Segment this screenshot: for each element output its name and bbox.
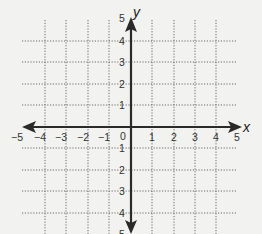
x-tick-2: 2 [171, 131, 177, 143]
y-tick-2: 2 [119, 78, 125, 90]
x-tick-neg5: −5 [11, 131, 23, 143]
x-tick-labels-negative: −5 −4 −3 −2 −1 [11, 131, 110, 143]
x-tick-4: 4 [213, 131, 219, 143]
y-tick-1: 1 [119, 99, 125, 111]
x-tick-neg3: −3 [55, 131, 67, 143]
x-tick-neg1: −1 [98, 131, 110, 143]
y-tick-neg5: 5 [119, 228, 125, 234]
x-tick-5: 5 [234, 131, 240, 143]
y-tick-labels-negative: 1 2 3 4 5 [119, 142, 125, 234]
y-tick-3: 3 [119, 56, 125, 68]
y-axis-label: y [132, 4, 141, 20]
y-tick-neg3: 3 [119, 185, 125, 197]
y-tick-neg4: 4 [119, 207, 125, 219]
coordinate-plane: x y 0 −5 −4 −3 −2 −1 1 2 3 4 5 5 4 3 2 1… [0, 0, 262, 234]
y-tick-5: 5 [119, 12, 125, 24]
y-tick-neg2: 2 [119, 164, 125, 176]
x-tick-neg4: −4 [34, 131, 46, 143]
x-tick-1: 1 [149, 131, 155, 143]
x-axis-label: x [242, 119, 251, 135]
x-tick-3: 3 [192, 131, 198, 143]
x-tick-labels-positive: 1 2 3 4 5 [149, 131, 240, 143]
y-tick-labels-positive: 5 4 3 2 1 [119, 12, 125, 111]
y-tick-neg1: 1 [119, 142, 125, 154]
x-tick-neg2: −2 [77, 131, 89, 143]
y-axis [125, 17, 137, 234]
y-tick-4: 4 [119, 35, 125, 47]
origin-label: 0 [120, 130, 126, 142]
